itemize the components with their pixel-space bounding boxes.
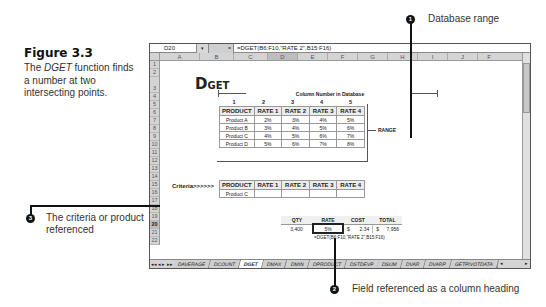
next-sheet-icon[interactable]: ▸: [162, 261, 165, 267]
row-header[interactable]: 16: [150, 189, 159, 197]
scroll-right-icon[interactable]: ▸: [525, 260, 528, 268]
row-header[interactable]: 9: [150, 133, 159, 141]
excel-window: D20 ▾ = =DGET(B6:F10,"RATE 2",B15:F16) A…: [149, 43, 531, 269]
row-header[interactable]: 14: [150, 173, 159, 181]
formula-bar: D20 ▾ = =DGET(B6:F10,"RATE 2",B15:F16): [150, 44, 530, 53]
row-header[interactable]: 3: [150, 77, 159, 93]
formula-equals-icon[interactable]: =: [209, 44, 234, 53]
range-label: RANGE: [378, 127, 396, 133]
tab-dget[interactable]: DGET: [239, 260, 264, 268]
figure-caption: Figure 3.3 The DGET function finds a num…: [24, 46, 134, 100]
vertical-scrollbar[interactable]: [522, 53, 530, 260]
column-header[interactable]: H: [388, 53, 418, 60]
figure-title: Figure 3.3: [24, 46, 134, 60]
cell[interactable]: [337, 190, 365, 198]
total-cell[interactable]: 7,956: [382, 224, 402, 233]
sheet-title: DGET: [195, 75, 229, 93]
bracket-right: [410, 93, 438, 94]
qty-cell[interactable]: 3,400: [281, 224, 313, 233]
callout-line-3: [30, 205, 160, 207]
column-header[interactable]: E: [298, 53, 328, 60]
table-row: Product C: [220, 190, 365, 198]
row-header[interactable]: 10: [150, 141, 159, 149]
criteria-header[interactable]: PRODUCT: [220, 181, 255, 190]
row-header[interactable]: 15: [150, 181, 159, 189]
cell[interactable]: [309, 190, 337, 198]
row-header[interactable]: 17: [150, 197, 159, 205]
calc-header[interactable]: COST: [343, 216, 373, 224]
criteria-header[interactable]: RATE 1: [254, 181, 282, 190]
cost-cell[interactable]: 2.34: [353, 224, 373, 233]
row-header[interactable]: 5: [150, 101, 159, 109]
row-header[interactable]: 7: [150, 117, 159, 125]
column-header[interactable]: F: [478, 53, 500, 60]
callout-number-3: 3: [26, 214, 35, 223]
column-header[interactable]: G: [358, 53, 388, 60]
select-all-corner[interactable]: [150, 53, 160, 60]
column-header[interactable]: A: [160, 53, 200, 60]
callout-number-1: 1: [406, 15, 415, 24]
callout-text-2: Field referenced as a column heading: [352, 283, 519, 295]
cell[interactable]: Product C: [220, 190, 255, 198]
row-header[interactable]: 1: [150, 61, 159, 69]
column-header[interactable]: C: [234, 53, 268, 60]
calc-header[interactable]: QTY: [281, 216, 313, 224]
cell[interactable]: [254, 190, 282, 198]
row-header[interactable]: 11: [150, 149, 159, 157]
column-headers: A B C D E F G H I J F: [150, 53, 530, 61]
column-header[interactable]: F: [328, 53, 358, 60]
criteria-label: Criteria>>>>>>: [172, 183, 214, 189]
tab-dvar[interactable]: DVAR: [401, 260, 426, 268]
range-bracket: [217, 104, 368, 162]
formula-input[interactable]: =DGET(B6:F10,"RATE 2",B15:F16): [234, 44, 331, 53]
calc-table: QTY RATE COST TOTAL 3,400 5% $ 2.34 $ 7,…: [281, 216, 402, 234]
row-header[interactable]: 6: [150, 109, 159, 117]
cell[interactable]: [282, 190, 310, 198]
callout-number-2: 2: [330, 285, 339, 294]
tab-dproduct[interactable]: DPRODUCT: [307, 260, 346, 268]
tab-navigation: ◂◂ ◂ ▸ ▸▸: [150, 261, 174, 267]
criteria-header[interactable]: RATE 3: [309, 181, 337, 190]
scroll-left-icon[interactable]: ◂: [500, 260, 503, 268]
row-header[interactable]: 2: [150, 69, 159, 77]
horizontal-scrollbar[interactable]: ◂ ▸: [497, 260, 530, 268]
row-header[interactable]: 8: [150, 125, 159, 133]
first-sheet-icon[interactable]: ◂◂: [151, 261, 157, 267]
tab-getpivotdata[interactable]: GETPIVOTDATA: [450, 260, 499, 268]
sheet-tab-bar: ◂◂ ◂ ▸ ▸▸ DAVERAGE DCOUNT DGET DMAX DMIN…: [150, 259, 530, 268]
name-box[interactable]: D20: [150, 44, 197, 53]
last-sheet-icon[interactable]: ▸▸: [167, 261, 173, 267]
calc-header[interactable]: TOTAL: [373, 216, 402, 224]
bracket-left: [218, 93, 246, 94]
tab-dcount[interactable]: DCOUNT: [209, 260, 242, 268]
column-number-label: Column Number in Database: [270, 91, 390, 97]
rate-cell-selected[interactable]: 5%: [313, 224, 343, 233]
callout-text-1: Database range: [428, 13, 499, 25]
tab-dmin[interactable]: DMIN: [286, 260, 310, 268]
scroll-thumb[interactable]: [523, 63, 530, 113]
column-header[interactable]: J: [448, 53, 478, 60]
criteria-table: PRODUCT RATE 1 RATE 2 RATE 3 RATE 4 Prod…: [219, 180, 365, 198]
tab-daverage[interactable]: DAVERAGE: [173, 260, 212, 268]
calc-header[interactable]: RATE: [313, 216, 343, 224]
tab-dvarp[interactable]: DVARP: [424, 260, 452, 268]
criteria-header[interactable]: RATE 4: [337, 181, 365, 190]
name-box-dropdown-icon[interactable]: ▾: [197, 44, 209, 53]
prev-sheet-icon[interactable]: ◂: [158, 261, 161, 267]
row-header[interactable]: 13: [150, 165, 159, 173]
tab-dsum[interactable]: DSUM: [377, 260, 403, 268]
tab-dstdevp[interactable]: DSTDEVP: [345, 260, 380, 268]
row-header[interactable]: 4: [150, 93, 159, 101]
criteria-header[interactable]: RATE 2: [282, 181, 310, 190]
callout-line-1: [410, 23, 412, 138]
column-header[interactable]: D: [268, 53, 298, 60]
callout-text-3: The criteria or product referenced: [46, 212, 156, 236]
column-header[interactable]: I: [418, 53, 448, 60]
range-tick: [368, 130, 376, 131]
formula-note: =DGET(B6:F10,"RATE 2",B15:F16): [314, 235, 385, 240]
row-header[interactable]: 22: [150, 237, 159, 245]
worksheet-grid[interactable]: DGET Column Number in Database 1 2 3 4 5…: [160, 61, 522, 261]
row-header[interactable]: 12: [150, 157, 159, 165]
tab-dmax[interactable]: DMAX: [262, 260, 288, 268]
column-header[interactable]: B: [200, 53, 234, 60]
